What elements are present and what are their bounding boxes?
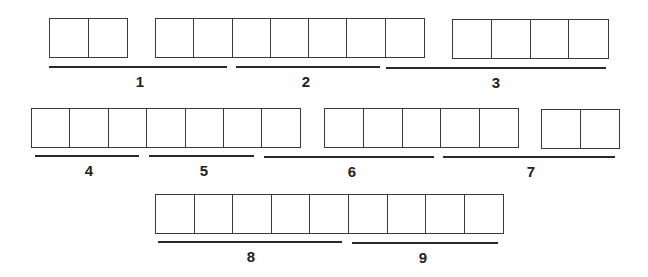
box-group: [49, 18, 128, 58]
box-group: [452, 19, 609, 59]
word-number-label: 4: [85, 163, 93, 178]
box-group: [155, 18, 425, 58]
letter-cell[interactable]: [155, 18, 195, 58]
letter-cell[interactable]: [185, 108, 225, 148]
word-number-label: 5: [200, 163, 208, 178]
word-underline: [443, 156, 615, 158]
letter-cell[interactable]: [146, 108, 186, 148]
letter-cell[interactable]: [425, 194, 465, 234]
word-underline: [158, 241, 342, 243]
letter-cell[interactable]: [385, 18, 425, 58]
word-underline: [386, 67, 606, 69]
letter-cell[interactable]: [346, 18, 386, 58]
letter-cell[interactable]: [232, 18, 272, 58]
box-group: [324, 108, 519, 148]
letter-cell[interactable]: [49, 18, 89, 58]
letter-cell[interactable]: [193, 18, 233, 58]
word-underline: [49, 66, 227, 68]
box-group: [541, 109, 620, 149]
letter-cell[interactable]: [402, 108, 442, 148]
box-group: [155, 194, 504, 234]
word-underline: [35, 155, 139, 157]
word-underline: [236, 66, 380, 68]
word-underline: [352, 242, 498, 244]
word-number-label: 3: [492, 75, 500, 90]
letter-cell[interactable]: [308, 18, 348, 58]
letter-cell[interactable]: [108, 108, 148, 148]
word-underline: [149, 155, 254, 157]
letter-cell[interactable]: [155, 194, 195, 234]
word-number-label: 7: [527, 164, 535, 179]
word-number-label: 6: [348, 164, 356, 179]
word-number-label: 8: [247, 249, 255, 264]
letter-cell[interactable]: [580, 109, 620, 149]
letter-cell[interactable]: [530, 19, 570, 59]
letter-cell[interactable]: [309, 194, 349, 234]
letter-cell[interactable]: [541, 109, 581, 149]
word-number-label: 9: [419, 250, 427, 265]
letter-cell[interactable]: [440, 108, 480, 148]
letter-cell[interactable]: [261, 108, 301, 148]
letter-cell[interactable]: [387, 194, 427, 234]
letter-cell[interactable]: [348, 194, 388, 234]
letter-cell[interactable]: [464, 194, 504, 234]
letter-cell[interactable]: [88, 18, 128, 58]
letter-cell[interactable]: [69, 108, 109, 148]
letter-cell[interactable]: [232, 194, 272, 234]
word-number-label: 2: [302, 74, 310, 89]
box-group: [31, 108, 301, 148]
letter-cell[interactable]: [452, 19, 492, 59]
letter-cell[interactable]: [324, 108, 364, 148]
letter-cell[interactable]: [568, 19, 608, 59]
word-underline: [264, 156, 434, 158]
letter-cell[interactable]: [31, 108, 71, 148]
letter-cell[interactable]: [491, 19, 531, 59]
letter-cell[interactable]: [223, 108, 263, 148]
word-number-label: 1: [136, 74, 144, 89]
letter-cell[interactable]: [194, 194, 234, 234]
letter-cell[interactable]: [363, 108, 403, 148]
letter-cell[interactable]: [479, 108, 519, 148]
letter-cell[interactable]: [271, 194, 311, 234]
letter-cell[interactable]: [270, 18, 310, 58]
